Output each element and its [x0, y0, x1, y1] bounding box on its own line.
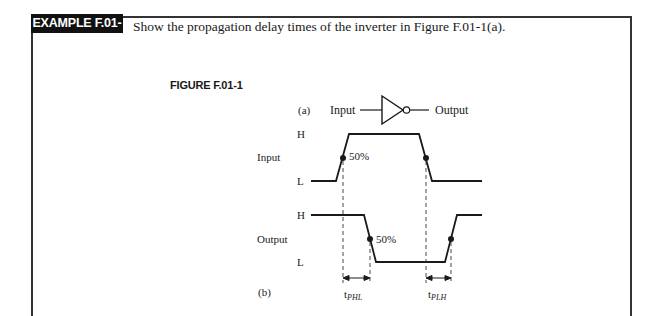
output-high-label: H — [297, 209, 305, 221]
part-a-tag: (a) — [298, 104, 311, 117]
inverter-gate-icon — [382, 96, 403, 124]
output-waveform: H Output L 50% — [257, 209, 482, 268]
output-low-label: L — [297, 256, 304, 268]
part-b-tag: (b) — [258, 286, 271, 299]
inversion-bubble-icon — [403, 107, 409, 113]
input-low-label: L — [297, 175, 304, 187]
input-50pct-dot-rising — [340, 155, 346, 161]
input-waveform: H Input L 50% — [257, 128, 482, 187]
input-50pct-dot-falling — [423, 155, 429, 161]
reference-lines — [343, 161, 451, 283]
delay-arrows — [343, 276, 451, 281]
input-wave-label: Input — [257, 151, 280, 163]
input-high-label: H — [297, 128, 305, 140]
gate-input-label: Input — [330, 103, 356, 117]
inverter-diagram: (a) Input Output — [298, 96, 469, 124]
tphl-label: tPHL — [344, 288, 363, 302]
output-wave-label: Output — [257, 233, 288, 245]
tplh-label: tPLH — [428, 288, 447, 302]
output-50pct-dot-falling — [367, 236, 373, 242]
input-50pct-label: 50% — [349, 150, 369, 162]
output-50pct-label: 50% — [376, 233, 396, 245]
gate-output-label: Output — [435, 103, 469, 117]
output-50pct-dot-rising — [448, 236, 454, 242]
